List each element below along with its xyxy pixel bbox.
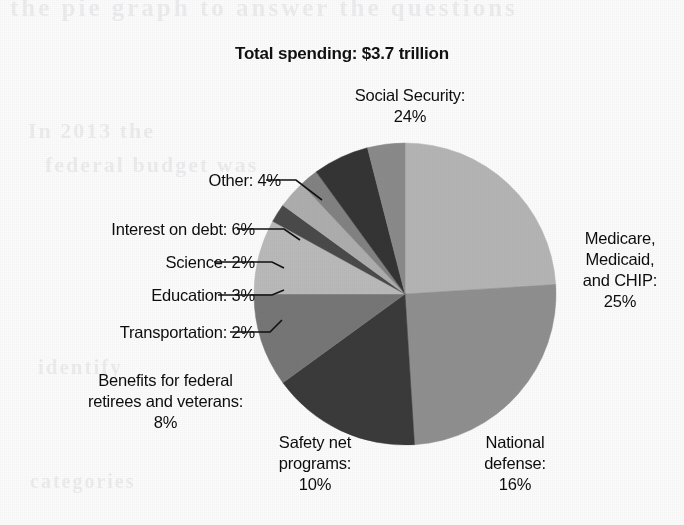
slice-label-transportation: Transportation: 2% xyxy=(0,322,255,343)
slice-label-benefits-federal-retirees-veterans: Benefits for federal retirees and vetera… xyxy=(58,370,273,433)
slice-label-other: Other: 4% xyxy=(0,170,281,191)
chart-page: the pie graph to answer the questions In… xyxy=(0,0,684,525)
slice-label-social-security: Social Security: 24% xyxy=(310,85,510,127)
slice-label-safety-net-programs: Safety net programs: 10% xyxy=(250,432,380,495)
slice-label-interest-on-debt: Interest on debt: 6% xyxy=(0,219,255,240)
pie-slice-medicare-medicaid-and-chip xyxy=(405,285,556,445)
pie-slice-social-security xyxy=(405,143,556,294)
pie-slice-group xyxy=(254,143,556,445)
slice-label-national-defense: National defense: 16% xyxy=(450,432,580,495)
slice-label-medicare-medicaid-chip: Medicare, Medicaid, and CHIP: 25% xyxy=(558,228,682,312)
slice-label-science: Science: 2% xyxy=(0,252,255,273)
slice-label-education: Education: 3% xyxy=(0,285,255,306)
